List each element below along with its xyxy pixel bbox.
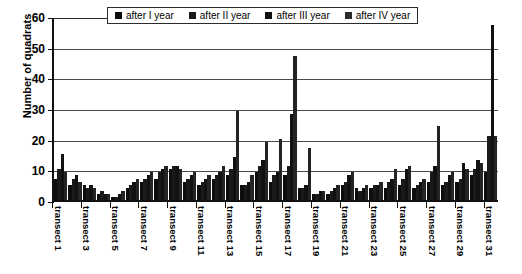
plot-inner: 0102030405060 xyxy=(54,18,498,200)
bar xyxy=(93,188,96,200)
bar xyxy=(293,56,296,200)
bar xyxy=(322,191,325,200)
x-tick-label: transect 3 xyxy=(81,206,92,251)
bar-group xyxy=(226,18,240,200)
bar-group xyxy=(455,18,469,200)
bar xyxy=(193,172,196,200)
legend-label: after IV year xyxy=(356,10,410,21)
bar-group xyxy=(427,18,441,200)
bar-group xyxy=(111,18,125,200)
bar-group xyxy=(484,18,498,200)
bar xyxy=(222,166,225,200)
bar xyxy=(308,148,311,200)
x-tick-label: transect 21 xyxy=(340,206,351,256)
y-tick-label: 60 xyxy=(32,11,45,25)
bar-group xyxy=(298,18,312,200)
bar xyxy=(136,179,139,200)
x-tick-label: transect 17 xyxy=(283,206,294,256)
x-tick-label: transect 31 xyxy=(484,206,495,256)
bar-group xyxy=(326,18,340,200)
bar xyxy=(236,111,239,200)
x-tick-label: transect 13 xyxy=(225,206,236,256)
legend-swatch-icon xyxy=(189,12,196,19)
y-tick-label: 40 xyxy=(32,72,45,86)
bar-group xyxy=(83,18,97,200)
bar xyxy=(265,142,268,200)
legend-swatch-icon xyxy=(115,12,122,19)
legend-label: after II year xyxy=(200,10,251,21)
bar xyxy=(64,172,67,200)
legend-item: after IV year xyxy=(345,10,410,21)
x-tick-label: transect 5 xyxy=(110,206,121,251)
bar-group xyxy=(183,18,197,200)
bar-group xyxy=(283,18,297,200)
bar xyxy=(422,179,425,200)
bar-group xyxy=(240,18,254,200)
bar-group xyxy=(412,18,426,200)
bar-group xyxy=(126,18,140,200)
x-tick-label: transect 29 xyxy=(455,206,466,256)
x-tick-label: transect 15 xyxy=(254,206,265,256)
bar-group xyxy=(54,18,68,200)
x-tick-label: transect 27 xyxy=(427,206,438,256)
bars-container xyxy=(54,18,498,200)
bar xyxy=(379,182,382,200)
bar xyxy=(394,169,397,200)
bar-group xyxy=(269,18,283,200)
bar xyxy=(465,169,468,200)
x-axis-labels: transect 1transect 3transect 5transect 7… xyxy=(52,202,498,274)
bar-group xyxy=(154,18,168,200)
bar-group xyxy=(140,18,154,200)
bar xyxy=(408,166,411,200)
bar xyxy=(250,175,253,200)
bar xyxy=(451,172,454,200)
x-tick-label: transect 1 xyxy=(53,206,64,251)
y-tick-label: 50 xyxy=(32,42,45,56)
bar-group xyxy=(197,18,211,200)
legend-item: after II year xyxy=(189,10,251,21)
bar xyxy=(107,194,110,200)
bar-group xyxy=(312,18,326,200)
y-tick-label: 10 xyxy=(32,164,45,178)
bar xyxy=(179,169,182,200)
plot-area: 0102030405060 xyxy=(52,18,498,202)
bar-group xyxy=(441,18,455,200)
bar xyxy=(494,136,497,200)
legend-swatch-icon xyxy=(265,12,272,19)
bar xyxy=(150,172,153,200)
bar xyxy=(207,175,210,200)
bar-group xyxy=(68,18,82,200)
x-tick-label: transect 11 xyxy=(196,206,207,256)
bar xyxy=(121,191,124,200)
bar xyxy=(279,139,282,200)
bar-group xyxy=(470,18,484,200)
legend-label: after III year xyxy=(276,10,329,21)
x-tick-label: transect 7 xyxy=(139,206,150,251)
bar xyxy=(365,185,368,200)
legend-swatch-icon xyxy=(345,12,352,19)
y-tick-label: 30 xyxy=(32,103,45,117)
bar xyxy=(336,185,339,200)
bar-group xyxy=(212,18,226,200)
x-tick-label: transect 23 xyxy=(369,206,380,256)
bar-group xyxy=(169,18,183,200)
bar-group xyxy=(369,18,383,200)
y-tick-label: 20 xyxy=(32,134,45,148)
x-tick-label: transect 25 xyxy=(398,206,409,256)
bar xyxy=(480,163,483,200)
x-tick-label: transect 9 xyxy=(168,206,179,251)
y-tick-label: 0 xyxy=(38,195,45,209)
chart-legend: after I yearafter II yearafter III yeara… xyxy=(107,7,418,24)
bar xyxy=(164,166,167,200)
bar-chart: Number of quadrats after I yearafter II … xyxy=(0,0,522,274)
bar-group xyxy=(97,18,111,200)
bar-group xyxy=(384,18,398,200)
bar-group xyxy=(355,18,369,200)
bar-group xyxy=(398,18,412,200)
bar xyxy=(351,172,354,200)
legend-item: after I year xyxy=(115,10,174,21)
legend-label: after I year xyxy=(126,10,174,21)
bar-group xyxy=(341,18,355,200)
legend-item: after III year xyxy=(265,10,329,21)
bar xyxy=(78,182,81,200)
